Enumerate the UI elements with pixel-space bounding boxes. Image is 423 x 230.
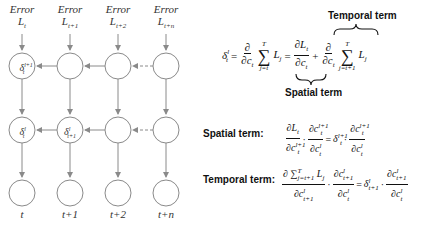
time-label-tn: t+n: [146, 208, 186, 220]
main-equation: δlt = ∂∂ct T∑j=t Lj = ∂Lt∂ct + ∂∂ct T∑j=…: [222, 38, 367, 73]
node-delta-top-left: δl+1t: [9, 60, 35, 77]
time-label-t1: t+1: [50, 208, 90, 220]
spatial-term-label: Spatial term:: [203, 128, 264, 139]
error-label-col0: Error Lt: [2, 3, 42, 32]
node-delta-mid-second: δlt+1: [57, 124, 83, 141]
spatial-term-equation: ∂Lt∂cl+1t · ∂cl+1t∂clt = δl+1t · ∂cl+1t∂…: [285, 120, 365, 160]
time-label-t2: t+2: [98, 208, 138, 220]
temporal-term-equation: ∂ ∑Tj=t+1 Lj∂clt+1 · ∂clt+1∂clt = δlt+1 …: [282, 165, 408, 205]
error-label-col2: Error Lt+2: [98, 3, 138, 32]
error-label-col1: Error Lt+1: [50, 3, 90, 32]
error-label-col3: Error Lt+n: [146, 3, 186, 32]
spatial-term-brace-label: Spatial term: [285, 87, 342, 98]
time-label-t: t: [2, 208, 42, 220]
temporal-term-label: Temporal term:: [203, 174, 275, 185]
temporal-term-brace-label: Temporal term: [328, 10, 397, 21]
node-delta-mid-left: δlt: [9, 124, 35, 141]
